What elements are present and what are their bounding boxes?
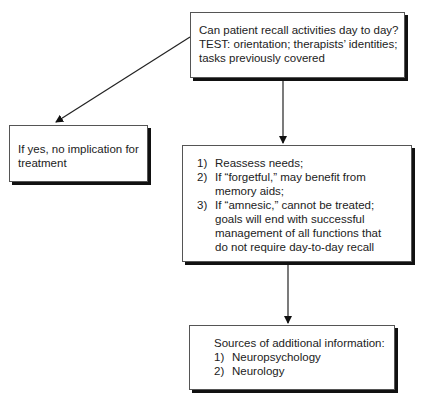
question-node: Can patient recall activities day to day…: [190, 12, 405, 78]
yes-branch-node: If yes, no implication for treatment: [9, 125, 148, 182]
action-item: 1)Reassess needs;: [197, 156, 397, 170]
item-number: 3): [197, 198, 215, 254]
item-text: Neurology: [232, 364, 284, 378]
action-item: 3)If “amnesic,” cannot be treated; goals…: [197, 198, 397, 254]
item-text: Reassess needs;: [215, 156, 303, 170]
item-text: Neuropsychology: [232, 350, 321, 364]
source-item: 1)Neuropsychology: [214, 350, 394, 364]
actions-node: 1)Reassess needs; 2)If “forgetful,” may …: [182, 145, 412, 262]
sources-node: Sources of additional information: 1)Neu…: [189, 325, 395, 390]
item-text: If “forgetful,” may benefit from memory …: [215, 170, 397, 198]
question-line-1: Can patient recall activities day to day…: [199, 23, 404, 37]
yes-line-1: If yes, no implication for: [18, 142, 147, 156]
action-item: 2)If “forgetful,” may benefit from memor…: [197, 170, 397, 198]
item-text: If “amnesic,” cannot be treated; goals w…: [215, 198, 397, 254]
item-number: 2): [214, 364, 232, 378]
item-number: 1): [197, 156, 215, 170]
yes-line-2: treatment: [18, 156, 147, 170]
question-line-2: TEST: orientation; therapists’ identitie…: [199, 37, 404, 51]
item-number: 1): [214, 350, 232, 364]
question-line-3: tasks previously covered: [199, 51, 404, 65]
sources-heading: Sources of additional information:: [214, 336, 394, 350]
item-number: 2): [197, 170, 215, 198]
source-item: 2)Neurology: [214, 364, 394, 378]
arrow-question-to-yes: [56, 37, 190, 122]
